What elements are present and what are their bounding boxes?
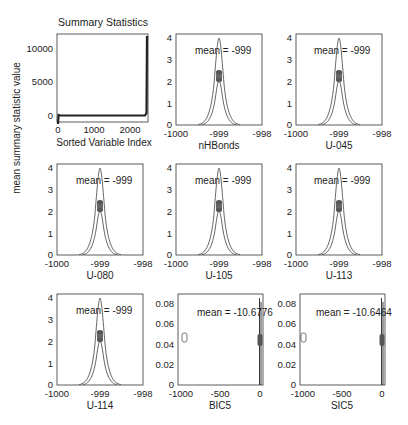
xtick: 0 bbox=[257, 388, 262, 399]
outlier-marker bbox=[301, 333, 306, 342]
mean-annotation: mean = -999 bbox=[195, 175, 252, 186]
ytick: 3 bbox=[48, 314, 53, 325]
xtick: -998 bbox=[252, 128, 271, 139]
xtick: -998 bbox=[372, 258, 391, 269]
xlabel: BIC5 bbox=[209, 400, 232, 411]
panel-title: Summary Statistics bbox=[58, 16, 148, 28]
ytick: 0.04 bbox=[156, 339, 175, 350]
xtick: -999 bbox=[90, 258, 109, 269]
xlabel: U-105 bbox=[205, 270, 233, 281]
mean-annotation: mean = -999 bbox=[314, 45, 371, 56]
xtick: -998 bbox=[133, 388, 152, 399]
xtick: -1000 bbox=[284, 258, 308, 269]
xlabel: U-114 bbox=[87, 400, 114, 411]
xtick: -998 bbox=[252, 258, 271, 269]
xtick: -999 bbox=[329, 258, 348, 269]
xtick: -998 bbox=[133, 258, 152, 269]
ytick: 3 bbox=[287, 54, 292, 65]
ytick: 2 bbox=[287, 206, 292, 217]
ytick: 4 bbox=[287, 162, 292, 173]
ytick: 0.02 bbox=[156, 359, 175, 370]
panel-U-113: 0 1 2 3 4 -1000 -999 -998 U-113 mean = -… bbox=[284, 162, 392, 281]
panel-U-105: 0 1 2 3 4 -1000 -999 -998 U-105 mean = -… bbox=[164, 162, 272, 281]
xtick: 0 bbox=[55, 124, 60, 135]
ytick: 4 bbox=[167, 162, 172, 173]
xlabel: U-045 bbox=[325, 140, 353, 151]
panel-BIC5: 0 0.02 0.04 0.06 0.08 -1000 -500 0 BIC5 … bbox=[156, 294, 274, 411]
ytick: 3 bbox=[167, 184, 172, 195]
xtick: -1000 bbox=[45, 258, 69, 269]
ytick: 0.02 bbox=[278, 359, 297, 370]
ytick: 2 bbox=[167, 76, 172, 87]
ytick: 2 bbox=[167, 206, 172, 217]
ytick: 4 bbox=[48, 162, 53, 173]
ytick: 1 bbox=[167, 228, 172, 239]
panel-SIC5: 0 0.02 0.04 0.06 0.08 -1000 -500 0 SIC5 … bbox=[278, 294, 393, 411]
xtick: 0 bbox=[379, 388, 384, 399]
xtick: -1000 bbox=[164, 128, 188, 139]
xlabel: U-080 bbox=[86, 270, 114, 281]
xtick: -999 bbox=[209, 128, 228, 139]
ytick: 0 bbox=[48, 110, 53, 121]
xtick: -999 bbox=[329, 128, 348, 139]
panel-U-045: 0 1 2 3 4 -1000 -999 -998 U-045 mean = -… bbox=[284, 32, 392, 151]
xtick: 2000 bbox=[119, 124, 140, 135]
xtick: 1000 bbox=[83, 124, 104, 135]
xlabel: SIC5 bbox=[331, 400, 354, 411]
ytick: 1 bbox=[48, 358, 53, 369]
ytick: 0.08 bbox=[278, 298, 297, 309]
mean-annotation: mean = -999 bbox=[76, 175, 133, 186]
ytick: 1 bbox=[287, 98, 292, 109]
mean-annotation: mean = -999 bbox=[314, 175, 371, 186]
mean-annotation: mean = -999 bbox=[195, 45, 252, 56]
xtick: -1000 bbox=[164, 258, 188, 269]
ytick: 1 bbox=[48, 228, 53, 239]
mean-annotation: mean = -999 bbox=[76, 305, 133, 316]
boxplot bbox=[380, 334, 385, 346]
ytick: 2 bbox=[287, 76, 292, 87]
axes-box bbox=[57, 34, 148, 122]
ytick: 0.06 bbox=[278, 318, 297, 329]
xtick: -500 bbox=[332, 388, 351, 399]
xtick: -1000 bbox=[169, 388, 193, 399]
ytick: 0.06 bbox=[156, 318, 175, 329]
ytick: 3 bbox=[48, 184, 53, 195]
panel-nHBonds: 0 1 2 3 4 -1000 -999 -998 nHBonds mean =… bbox=[164, 32, 272, 151]
outlier-marker bbox=[182, 333, 187, 342]
ytick: 4 bbox=[287, 32, 292, 43]
panel-U-080: 0 1 2 3 4 -1000 -999 -998 U-080 mean = -… bbox=[45, 162, 153, 281]
ytick: 4 bbox=[48, 292, 53, 303]
ytick: 1 bbox=[167, 98, 172, 109]
xtick: -1000 bbox=[291, 388, 315, 399]
xtick: -999 bbox=[90, 388, 109, 399]
ytick: 0.04 bbox=[278, 339, 297, 350]
ytick: 4 bbox=[167, 32, 172, 43]
figure: mean summary statistic value Summary Sta… bbox=[0, 0, 408, 425]
mean-annotation: mean = -10.6776 bbox=[197, 307, 273, 318]
boxplot bbox=[258, 334, 263, 346]
xtick: -998 bbox=[372, 128, 391, 139]
xlabel: nHBonds bbox=[198, 140, 239, 151]
xtick: -1000 bbox=[284, 128, 308, 139]
panel-summary: Summary Statistics 0 5000 10000 0 1000 2… bbox=[27, 16, 152, 148]
xtick: -1000 bbox=[45, 388, 69, 399]
ytick: 3 bbox=[167, 54, 172, 65]
ytick: 3 bbox=[287, 184, 292, 195]
mean-annotation: mean = -10.6464 bbox=[316, 307, 392, 318]
ytick: 10000 bbox=[27, 43, 53, 54]
xtick: -500 bbox=[210, 388, 229, 399]
xlabel: Sorted Variable Index bbox=[56, 137, 151, 148]
xlabel: U-113 bbox=[326, 270, 353, 281]
ytick: 0.08 bbox=[156, 298, 175, 309]
ytick: 2 bbox=[48, 336, 53, 347]
global-ylabel: mean summary statistic value bbox=[11, 62, 22, 194]
panel-U-114: 0 1 2 3 4 -1000 -999 -998 U-114 mean = -… bbox=[45, 292, 153, 411]
ytick: 5000 bbox=[32, 76, 53, 87]
ytick: 1 bbox=[287, 228, 292, 239]
xtick: -999 bbox=[209, 258, 228, 269]
ytick: 2 bbox=[48, 206, 53, 217]
